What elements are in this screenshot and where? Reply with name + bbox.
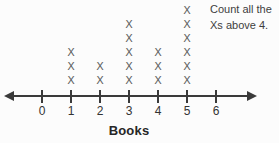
x-marker: X bbox=[96, 75, 104, 86]
axis-tick-label: 5 bbox=[184, 104, 191, 118]
instruction-line-2: Xs above 4. bbox=[210, 18, 272, 34]
x-marker: X bbox=[67, 75, 75, 86]
x-marker: X bbox=[96, 61, 104, 72]
x-marker: X bbox=[125, 47, 133, 58]
axis-tick-label: 3 bbox=[126, 104, 133, 118]
x-axis-label: Books bbox=[109, 123, 150, 138]
instruction-text: Count all the Xs above 4. bbox=[210, 2, 272, 33]
x-marker: X bbox=[125, 19, 133, 30]
x-marker: X bbox=[154, 47, 162, 58]
axis-arrow-left-icon bbox=[4, 91, 14, 101]
axis-tick-label: 4 bbox=[155, 104, 162, 118]
axis-tick bbox=[215, 90, 217, 103]
x-marker: X bbox=[183, 19, 191, 30]
axis-tick bbox=[128, 90, 130, 103]
axis-tick bbox=[186, 90, 188, 103]
x-marker: X bbox=[125, 75, 133, 86]
axis-tick-label: 6 bbox=[213, 104, 220, 118]
worksheet-figure: { "instruction": { "line1": "Count all t… bbox=[0, 0, 279, 143]
axis-tick bbox=[41, 90, 43, 103]
axis-tick-label: 0 bbox=[39, 104, 46, 118]
x-marker: X bbox=[154, 75, 162, 86]
axis-tick-label: 2 bbox=[97, 104, 104, 118]
x-marker: X bbox=[154, 61, 162, 72]
x-marker: X bbox=[67, 47, 75, 58]
x-marker: X bbox=[183, 61, 191, 72]
axis-tick bbox=[157, 90, 159, 103]
x-marker: X bbox=[67, 61, 75, 72]
x-marker: X bbox=[125, 61, 133, 72]
x-marker: X bbox=[183, 75, 191, 86]
axis-tick bbox=[70, 90, 72, 103]
instruction-line-1: Count all the bbox=[210, 2, 272, 18]
axis-tick-label: 1 bbox=[68, 104, 75, 118]
x-marker: X bbox=[183, 47, 191, 58]
x-marker: X bbox=[125, 33, 133, 44]
axis-arrow-right-icon bbox=[247, 91, 257, 101]
x-marker: X bbox=[183, 33, 191, 44]
axis-tick bbox=[99, 90, 101, 103]
x-marker: X bbox=[183, 5, 191, 16]
line-plot: 0123456 XXXXXXXXXXXXXXXXXXX Books Count … bbox=[0, 0, 279, 143]
